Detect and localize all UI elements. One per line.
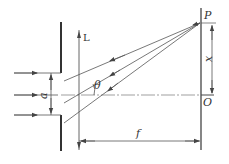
x-label: x [202,55,215,62]
slit-width-label: a [37,92,50,99]
lens-label: L [83,32,90,43]
diagram-svg: a L θ P O x f [0,0,229,164]
theta-label: θ [94,79,101,92]
lens [77,30,81,150]
origin-o-label: O [203,96,212,109]
diffraction-diagram: a L θ P O x f [0,0,229,164]
focal-length-label: f [135,127,142,140]
point-p-label: P [203,9,212,22]
